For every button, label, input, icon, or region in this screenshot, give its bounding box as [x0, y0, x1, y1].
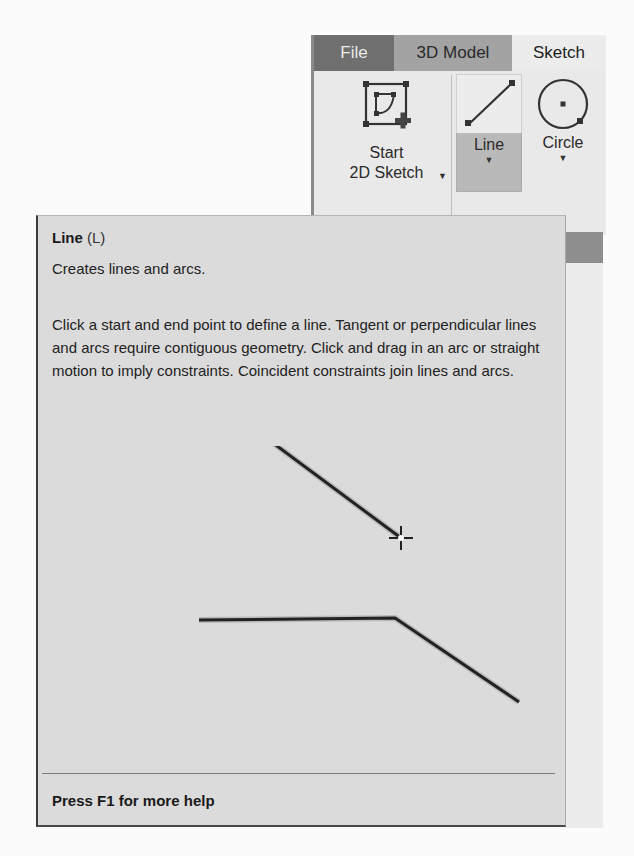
chevron-down-icon: ▼ [526, 153, 600, 163]
tooltip-command-name: Line [52, 229, 83, 246]
help-link[interactable]: Press F1 for more help [52, 792, 215, 809]
circle-button[interactable]: Circle ▼ [526, 75, 600, 163]
group-separator [451, 75, 452, 225]
line-label: Line [457, 135, 521, 155]
ribbon: File 3D Model Sketch Start [311, 35, 606, 235]
line-button[interactable]: Line ▼ [456, 74, 522, 192]
side-shade [566, 263, 603, 828]
line-arc-illustration [38, 446, 568, 776]
start-label-line1: Start [324, 143, 449, 163]
circle-icon [526, 75, 600, 133]
start-2d-sketch-icon [359, 77, 415, 133]
start-label-line2: 2D Sketch [324, 163, 449, 183]
tab-3d-model[interactable]: 3D Model [394, 35, 512, 71]
line-tooltip: Line (L) Creates lines and arcs. Click a… [36, 215, 566, 827]
chevron-down-icon: ▼ [457, 155, 521, 165]
circle-label: Circle [526, 133, 600, 153]
ribbon-tabs: File 3D Model Sketch [314, 35, 606, 71]
line-dropdown[interactable]: Line ▼ [456, 133, 522, 192]
tooltip-summary: Creates lines and arcs. [52, 260, 205, 277]
tooltip-title: Line (L) [52, 229, 105, 246]
start-2d-sketch-button[interactable]: Start 2D Sketch ▼ [324, 75, 449, 183]
line-icon [456, 74, 522, 133]
chevron-down-icon[interactable]: ▼ [438, 171, 447, 181]
ribbon-panel-bar [566, 232, 603, 263]
tooltip-divider [42, 773, 555, 774]
illustration-bottom-polyline [199, 618, 519, 702]
illustration-top-polyline [78, 446, 401, 538]
tooltip-shortcut: (L) [87, 229, 105, 246]
tab-file[interactable]: File [314, 35, 394, 71]
tooltip-description: Click a start and end point to define a … [52, 313, 557, 382]
tab-sketch[interactable]: Sketch [512, 35, 606, 71]
sketch-panel: Start 2D Sketch ▼ Line ▼ [314, 71, 606, 235]
